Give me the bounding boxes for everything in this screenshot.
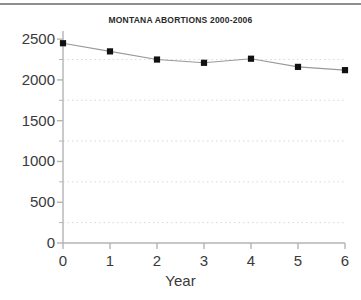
- data-line-group: [63, 43, 345, 70]
- y-tick-label: 1000: [5, 152, 55, 169]
- chart-container: MONTANA ABORTIONS 2000-2006 050010001500…: [0, 0, 361, 300]
- x-tick-label: 4: [236, 252, 266, 269]
- data-point-marker[interactable]: [154, 56, 160, 62]
- x-tick-label: 6: [330, 252, 360, 269]
- y-tick-label: 0: [5, 234, 55, 251]
- x-tick-label: 3: [189, 252, 219, 269]
- axis-ticks-group: [57, 39, 345, 249]
- data-point-marker[interactable]: [248, 56, 254, 62]
- data-series-line: [63, 43, 345, 70]
- y-tick-label: 2000: [5, 71, 55, 88]
- data-point-marker[interactable]: [295, 64, 301, 70]
- x-tick-label: 2: [142, 252, 172, 269]
- x-tick-label: 0: [48, 252, 78, 269]
- y-tick-label: 500: [5, 193, 55, 210]
- data-point-marker[interactable]: [201, 60, 207, 66]
- data-point-marker[interactable]: [107, 48, 113, 54]
- data-point-marker[interactable]: [60, 40, 66, 46]
- x-tick-label: 5: [283, 252, 313, 269]
- gridlines-group: [63, 60, 345, 223]
- x-tick-label: 1: [95, 252, 125, 269]
- x-axis-title: Year: [0, 272, 361, 289]
- data-points-group: [60, 40, 348, 73]
- y-tick-label: 2500: [5, 30, 55, 47]
- data-point-marker[interactable]: [342, 67, 348, 73]
- y-tick-label: 1500: [5, 112, 55, 129]
